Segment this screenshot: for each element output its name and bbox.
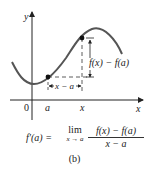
fraction-denominator: x − a (88, 138, 144, 150)
derivative-formula: f′(a) = lim x → a f(x) − f(a) x − a (22, 122, 142, 154)
horizontal-difference-label: x − a (55, 81, 74, 91)
figure-caption: (b) (0, 153, 149, 164)
vertical-difference-label: f(x) − f(a) (88, 58, 130, 68)
limit-operator: lim (60, 125, 90, 135)
x-axis-label: x (136, 104, 140, 114)
x-tick-x: x (80, 103, 84, 113)
difference-quotient: f(x) − f(a) x − a (88, 125, 144, 150)
limit-subscript: x → a (60, 135, 90, 143)
point-a (46, 75, 51, 80)
fraction-numerator: f(x) − f(a) (88, 125, 144, 138)
x-tick-a: a (45, 103, 50, 113)
point-x (80, 36, 85, 41)
formula-lhs: f′(a) = (26, 132, 52, 143)
y-axis-label: y (24, 12, 28, 22)
limit-block: lim x → a (60, 125, 90, 143)
origin-label: 0 (24, 103, 29, 113)
